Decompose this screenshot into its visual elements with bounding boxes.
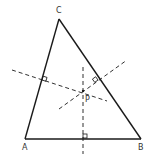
label-C: C [56, 7, 62, 15]
right-angle-marker-AC [42, 76, 47, 81]
label-A: A [22, 144, 27, 152]
label-P: P [85, 96, 90, 104]
bisector-BC [59, 60, 127, 109]
right-angle-marker-BC [92, 77, 98, 83]
triangle-diagram [0, 0, 156, 164]
diagram-canvas: C A B P [0, 0, 156, 164]
label-B: B [138, 144, 144, 152]
right-angle-marker-AB [83, 134, 87, 138]
point-P [82, 90, 84, 92]
bisector-AC [12, 70, 107, 101]
